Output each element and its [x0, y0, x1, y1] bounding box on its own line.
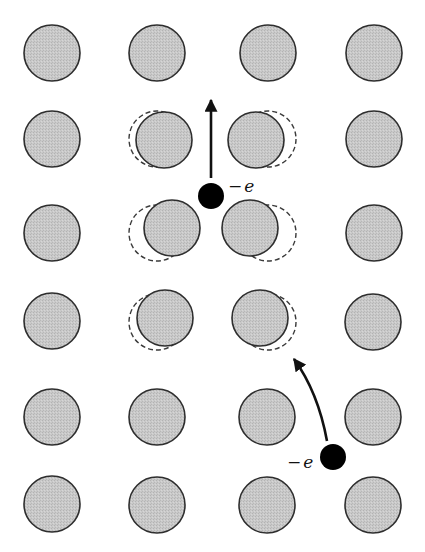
- lattice-ion: [24, 205, 80, 261]
- displaced-ion: [144, 200, 200, 256]
- lattice-ion: [24, 293, 80, 349]
- electron-charge-label: −e: [287, 452, 313, 472]
- lattice-ion: [345, 294, 401, 350]
- displaced-ion: [232, 290, 288, 346]
- lattice-ion: [129, 477, 185, 533]
- electron-dot: [198, 183, 224, 209]
- lattice-ion: [129, 25, 185, 81]
- curved-arrow-icon: [294, 359, 327, 441]
- electron-dot: [320, 444, 346, 470]
- lattice-ion: [129, 389, 185, 445]
- lattice-ion: [346, 205, 402, 261]
- displaced-ion: [136, 112, 192, 168]
- lattice-ion: [239, 477, 295, 533]
- lattice-ion: [24, 476, 80, 532]
- electron-charge-label: −e: [228, 176, 254, 196]
- lattice-ion: [345, 477, 401, 533]
- lattice-ion: [24, 25, 80, 81]
- lattice-ion: [24, 111, 80, 167]
- lattice-ion: [240, 25, 296, 81]
- displaced-ion: [137, 290, 193, 346]
- lattice-ion: [24, 389, 80, 445]
- displaced-ion: [222, 200, 278, 256]
- lattice-ion: [345, 389, 401, 445]
- lattice-ion: [346, 25, 402, 81]
- lattice-diagram: −e−e: [0, 0, 425, 552]
- displaced-ion: [228, 112, 284, 168]
- lattice-ion: [239, 389, 295, 445]
- lattice-ion: [346, 111, 402, 167]
